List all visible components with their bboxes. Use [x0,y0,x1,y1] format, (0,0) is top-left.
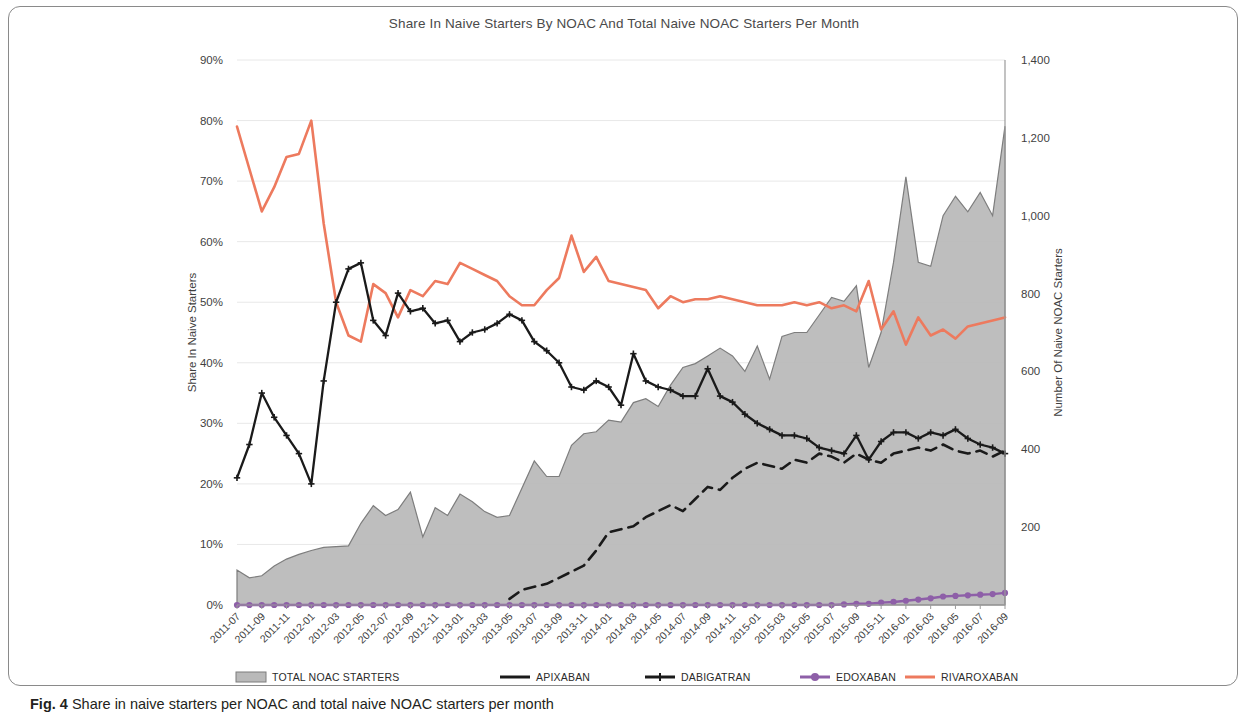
y2-axis-title: Number Of Naive NOAC Starters [1052,248,1064,417]
y2-axis-tick-label: 1,200 [1021,132,1050,144]
y-axis-tick-label: 90% [200,54,223,66]
y-axis-tick-label: 80% [200,115,223,127]
y-axis-tick-label: 20% [200,478,223,490]
y-axis-tick-label: 50% [200,296,223,308]
series-edoxaban-marker [977,592,983,598]
series-edoxaban-marker [841,601,847,607]
legend-label: TOTAL NOAC STARTERS [272,671,400,683]
series-total-noac-starters-area [237,126,1005,605]
y-axis-tick-label: 70% [200,175,223,187]
y2-axis-tick-label: 600 [1021,365,1040,377]
legend-label: RIVAROXABAN [941,671,1018,683]
legend-item[interactable]: EDOXABAN [800,671,896,683]
legend-marker-dot [811,673,819,681]
y-axis-tick-label: 10% [200,538,223,550]
legend-label: APIXABAN [536,671,590,683]
series-edoxaban-marker [940,593,946,599]
y-axis-tick-label: 30% [200,417,223,429]
legend-item[interactable]: RIVAROXABAN [905,671,1018,683]
y-axis-tick-label: 40% [200,357,223,369]
y2-axis-tick-label: 400 [1021,443,1040,455]
legend-label: DABIGATRAN [681,671,750,683]
series-edoxaban-marker [990,591,996,597]
series-edoxaban-marker [928,595,934,601]
y-axis-title: Share In Naive Starters [186,272,198,392]
series-edoxaban-marker [866,601,872,607]
caption-text: Share in naive starters per NOAC and tot… [72,696,554,712]
caption-label: Fig. 4 [30,696,68,712]
y2-axis-tick-label: 800 [1021,288,1040,300]
series-edoxaban-marker [965,592,971,598]
figure-caption: Fig. 4 Share in naive starters per NOAC … [30,696,1210,712]
legend-item[interactable]: APIXABAN [500,671,590,683]
series-edoxaban-marker [952,593,958,599]
y2-axis-tick-label: 1,000 [1021,210,1050,222]
series-edoxaban-marker [903,598,909,604]
series-edoxaban-marker [915,596,921,602]
y-axis-tick-label: 60% [200,236,223,248]
y2-axis-tick-label: 1,400 [1021,54,1050,66]
legend-label: EDOXABAN [836,671,896,683]
legend-item[interactable]: DABIGATRAN [645,671,750,683]
chart-svg: 0%10%20%30%40%50%60%70%80%90%20040060080… [0,0,1248,726]
y-axis-tick-label: 0% [206,599,223,611]
series-edoxaban-marker [890,599,896,605]
y2-axis-tick-label: 200 [1021,521,1040,533]
chart-plot-area: 0%10%20%30%40%50%60%70%80%90%20040060080… [0,0,1248,726]
legend-swatch-total-noac-starters [236,672,266,682]
legend-item[interactable]: TOTAL NOAC STARTERS [236,671,400,683]
